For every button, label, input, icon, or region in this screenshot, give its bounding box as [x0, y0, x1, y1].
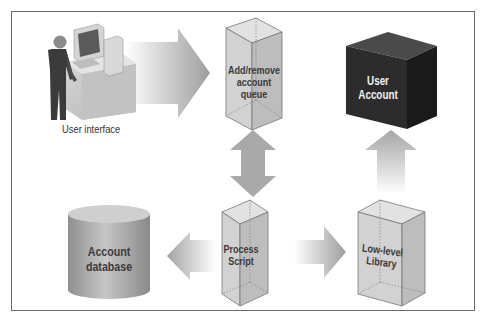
arrow-queue-script-bidirectional [230, 130, 276, 197]
arrow-script-to-library [294, 226, 346, 278]
arrow-ui-to-queue [125, 28, 210, 118]
user-account-label-line-1: User [345, 74, 411, 88]
user-interface-label: User interface [62, 123, 120, 135]
arrow-script-to-database [167, 232, 216, 280]
queue-label-line-2: account [221, 76, 287, 88]
queue-label-line-3: queue [221, 88, 287, 100]
user-account-label: User Account [345, 74, 411, 102]
user-interface-illustration [48, 24, 136, 120]
database-label: Account database [76, 244, 142, 274]
queue-label-line-1: Add/remove [221, 64, 287, 76]
process-script-label-line-1: Process [216, 243, 267, 255]
user-account-label-line-2: Account [345, 88, 411, 102]
database-label-line-2: database [76, 259, 142, 274]
database-label-line-1: Account [76, 244, 142, 259]
diagram-canvas [0, 0, 484, 321]
process-script-label-line-2: Script [216, 255, 267, 267]
process-script-label: Process Script [216, 243, 267, 267]
arrow-library-to-user-account [365, 130, 417, 194]
queue-label: Add/remove account queue [221, 64, 287, 100]
